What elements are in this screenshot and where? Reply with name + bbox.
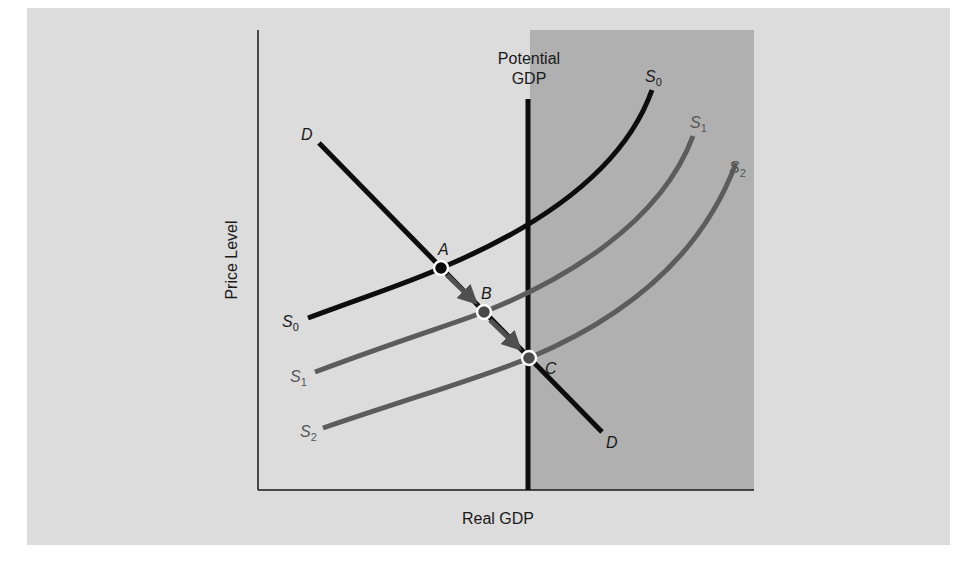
point-a-label: A: [437, 241, 449, 258]
y-axis-label: Price Level: [223, 220, 240, 299]
potential-gdp-label-line1: Potential: [498, 50, 560, 67]
point-b-label: B: [481, 285, 492, 302]
above-potential-shaded-region: [530, 30, 754, 490]
point-c-label: C: [545, 360, 557, 377]
aggregate-supply-demand-diagram: Potential GDP Real GDP Price Level D D S…: [0, 0, 973, 573]
arrow-a-to-b: [447, 275, 475, 302]
point-a-marker: [434, 261, 448, 275]
point-c-marker: [522, 351, 536, 365]
point-b-marker: [477, 305, 491, 319]
s1-label-bottom: S1: [290, 368, 307, 388]
demand-label-bottom: D: [606, 434, 618, 451]
demand-label-top: D: [301, 126, 313, 143]
arrow-b-to-c: [490, 320, 519, 348]
potential-gdp-label-line2: GDP: [512, 70, 547, 87]
s0-label-bottom: S0: [282, 313, 299, 333]
x-axis-label: Real GDP: [462, 510, 534, 527]
s2-label-bottom: S2: [300, 423, 317, 443]
